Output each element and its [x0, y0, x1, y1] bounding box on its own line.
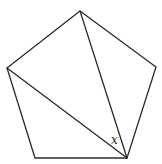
pentagon-diagram: x: [0, 0, 162, 164]
diagonal-left-to-bottom-right: [7, 68, 127, 158]
diagonal-top-to-bottom-right: [80, 11, 127, 158]
pentagon-svg: x: [0, 0, 162, 164]
angle-label-x: x: [111, 133, 118, 147]
